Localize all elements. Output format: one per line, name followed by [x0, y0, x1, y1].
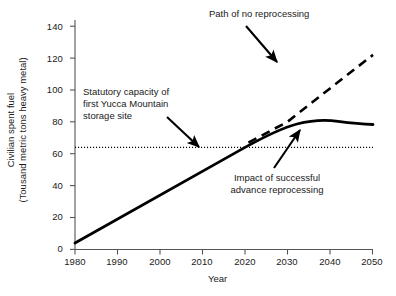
y-tick-marks — [70, 26, 75, 249]
chart-figure: Civilian spent fuel (Tousand metric tons… — [0, 0, 396, 296]
annotation-arrow-advance-reprocessing — [274, 130, 300, 168]
series-path-of-no-reprocessing — [248, 55, 373, 143]
annotation-arrow-yucca-capacity — [167, 117, 199, 147]
x-tick-marks — [75, 250, 373, 255]
plot-canvas — [0, 0, 396, 296]
annotation-arrow-path-of-no-reprocessing — [246, 26, 277, 62]
series-impact-of-advance-reprocessing — [75, 120, 373, 243]
